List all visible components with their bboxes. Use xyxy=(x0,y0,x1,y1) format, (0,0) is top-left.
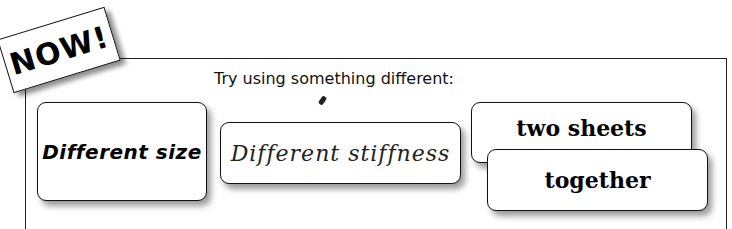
card-together: together xyxy=(487,149,708,211)
card-label: two sheets xyxy=(516,115,646,141)
card-different-size: Different size xyxy=(37,102,207,201)
card-different-stiffness: Different stiffness xyxy=(220,122,461,184)
card-label: Different stiffness xyxy=(231,141,451,166)
card-label: together xyxy=(545,167,651,193)
instruction-text: Try using something different: xyxy=(214,69,454,88)
card-label: Different size xyxy=(42,140,202,164)
